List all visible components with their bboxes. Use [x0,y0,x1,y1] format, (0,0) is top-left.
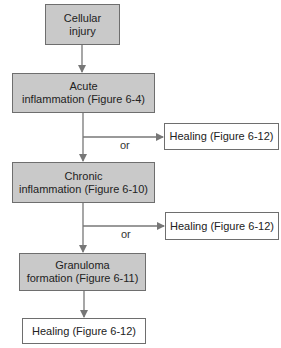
branch-label-or-2: or [121,228,131,240]
node-healing-3: Healing (Figure 6-12) [22,318,146,344]
branch-label-or-1: or [120,139,130,151]
node-label: Cellular injury [64,12,101,38]
node-granuloma-formation: Granuloma formation (Figure 6-11) [19,253,146,291]
node-label: Healing (Figure 6-12) [170,130,274,143]
node-label: Granuloma formation (Figure 6-11) [27,259,139,285]
node-label: Healing (Figure 6-12) [170,220,274,233]
node-label: Chronic inflammation (Figure 6-10) [19,170,148,196]
node-healing-2: Healing (Figure 6-12) [165,212,279,240]
node-chronic-inflammation: Chronic inflammation (Figure 6-10) [12,162,155,203]
node-cellular-injury: Cellular injury [45,4,120,45]
node-acute-inflammation: Acute inflammation (Figure 6-4) [12,73,155,113]
node-healing-1: Healing (Figure 6-12) [164,123,279,150]
node-label: Acute inflammation (Figure 6-4) [22,80,145,106]
node-label: Healing (Figure 6-12) [32,325,136,338]
